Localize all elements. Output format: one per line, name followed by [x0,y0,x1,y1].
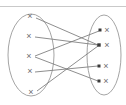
codomain-element-c4: × [103,76,108,86]
arrowhead-group [97,29,101,83]
domain-elements: × × × × × [26,11,33,97]
codomain-element-c3: × [103,61,108,71]
mapping-arrow-m6 [37,46,98,91]
mapping-arrows [35,18,99,91]
codomain-element-c1: × [104,25,109,35]
domain-element-d3: × [26,51,31,61]
domain-element-d4: × [27,66,32,76]
arrowhead-t1 [99,29,102,32]
arrowhead-t3 [98,65,101,68]
codomain-elements: × × × × [103,25,109,86]
domain-element-d2: × [26,31,31,41]
domain-element-d1: × [27,11,32,21]
mapping-diagram-svg: × × × × × × × × × [0,0,126,105]
arrowhead-t4 [98,80,101,83]
arrowhead-t2 [97,43,100,46]
domain-element-d5: × [28,87,33,97]
codomain-element-c2: × [104,40,109,50]
set-mapping-figure: × × × × × × × × × [0,0,126,105]
